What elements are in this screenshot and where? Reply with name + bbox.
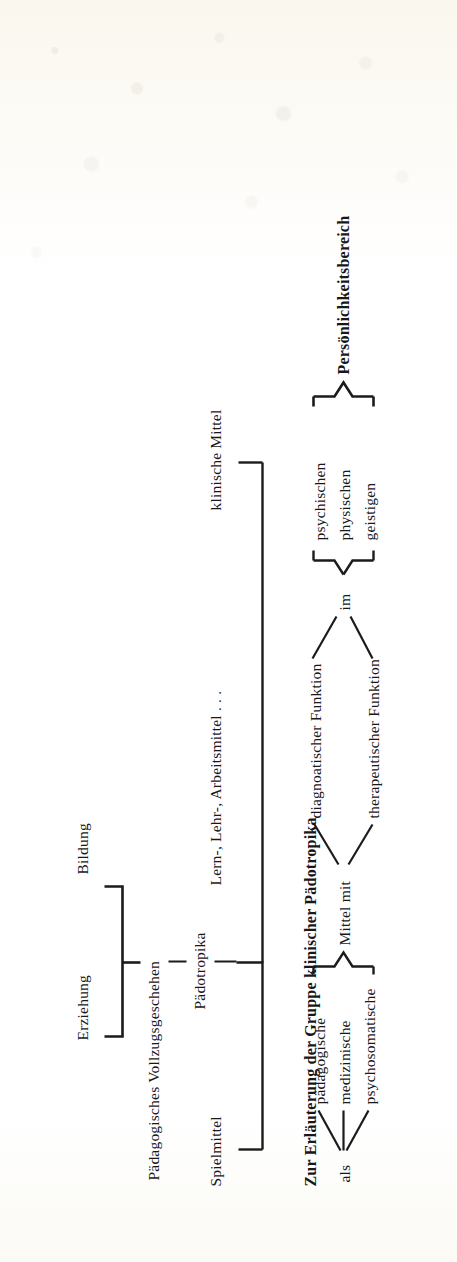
diagram-canvas: Erziehung Bildung Pädagogisches Vollzugs… [0,0,457,1262]
persoenlichkeitsbereich-brace [0,0,457,1262]
label-persoenlichkeitsbereich: Persönlichkeitsbereich [335,215,351,374]
scanned-page: Erziehung Bildung Pädagogisches Vollzugs… [0,0,457,1262]
